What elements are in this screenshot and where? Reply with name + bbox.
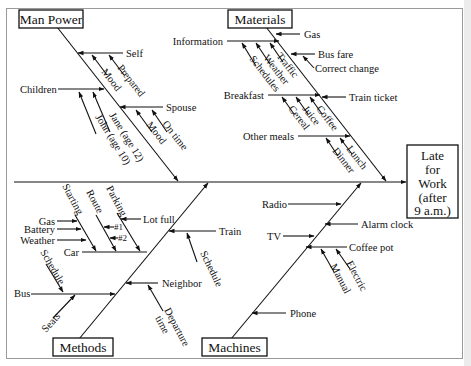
starting-arrow bbox=[75, 215, 96, 251]
neighbor-label: Neighbor bbox=[162, 278, 202, 289]
correct-change-label: Correct change bbox=[315, 63, 379, 74]
effect-line: 9 a.m.) bbox=[414, 203, 450, 218]
train-ticket-label: Train ticket bbox=[349, 92, 397, 103]
route-1-label: #1 bbox=[114, 222, 123, 232]
route-label: Route bbox=[84, 188, 106, 216]
route-2-label: #2 bbox=[118, 233, 127, 243]
bus-label: Bus bbox=[14, 288, 30, 299]
gas-label: Gas bbox=[304, 29, 320, 40]
fishbone-diagram: Man Power Materials Methods Machines Lat… bbox=[0, 0, 471, 366]
route-arrow bbox=[96, 215, 116, 251]
effect-line: Late bbox=[421, 148, 444, 163]
other-meals-label: Other meals bbox=[243, 131, 294, 142]
seats-label: Seats bbox=[39, 311, 62, 335]
train-label: Train bbox=[219, 226, 242, 237]
self-label: Self bbox=[126, 48, 143, 59]
car-battery-label: Battery bbox=[24, 224, 56, 235]
machines-label: Machines bbox=[208, 340, 260, 355]
spouse-label: Spouse bbox=[166, 102, 197, 113]
car-weather-label: Weather bbox=[20, 235, 55, 246]
effect-line: Work bbox=[418, 176, 447, 191]
starting-label: Starting bbox=[60, 182, 86, 217]
materials-label: Materials bbox=[235, 12, 286, 27]
children-label: Children bbox=[20, 84, 57, 95]
man-power-label: Man Power bbox=[20, 12, 83, 27]
phone-label: Phone bbox=[290, 308, 317, 319]
methods-label: Methods bbox=[59, 340, 106, 355]
tv-label: TV bbox=[267, 231, 281, 242]
effect-line: for bbox=[425, 162, 441, 177]
john-arrow bbox=[79, 92, 96, 134]
train-schedule-label: Schedule bbox=[198, 249, 225, 289]
car-label: Car bbox=[64, 247, 80, 258]
radio-label: Radio bbox=[262, 199, 287, 210]
departure-time-arrow bbox=[148, 285, 163, 311]
breakfast-label: Breakfast bbox=[224, 90, 264, 101]
alarm-clock-label: Alarm clock bbox=[361, 219, 414, 230]
information-label: Information bbox=[173, 36, 224, 47]
coffee-pot-label: Coffee pot bbox=[349, 242, 394, 253]
man-power-bone bbox=[57, 27, 178, 181]
train-schedule-arrow bbox=[187, 233, 197, 262]
correct-change-arrow bbox=[303, 56, 314, 68]
lot-full-label: Lot full bbox=[143, 214, 175, 225]
bus-fare-label: Bus fare bbox=[318, 49, 354, 60]
